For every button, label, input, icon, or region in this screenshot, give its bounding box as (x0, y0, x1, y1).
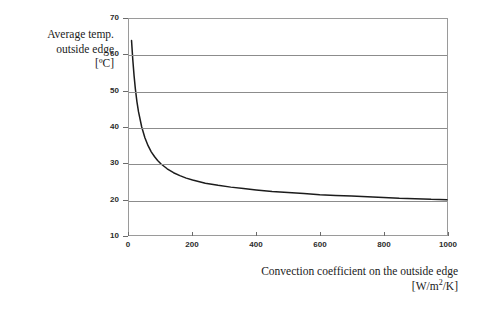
gridline-y-20 (129, 201, 447, 202)
y-tick-30 (123, 163, 128, 164)
gridline-y-50 (129, 92, 447, 93)
y-tick-label-60: 60 (95, 49, 119, 58)
y-tick-label-50: 50 (95, 86, 119, 95)
gridline-y-40 (129, 128, 447, 129)
chart-figure: Average temp. outside edge [ºC] 10203040… (0, 0, 486, 312)
y-tick-label-70: 70 (95, 13, 119, 22)
x-tick-label-600: 600 (300, 240, 340, 249)
y-tick-label-40: 40 (95, 122, 119, 131)
y-tick-label-20: 20 (95, 195, 119, 204)
x-tick-400 (256, 232, 257, 236)
x-axis-title-line-1: Convection coefficient on the outside ed… (196, 264, 458, 279)
x-axis-unit-prefix: [W/m (412, 280, 439, 292)
y-tick-50 (123, 91, 128, 92)
y-axis-title-line-1: Average temp. (6, 27, 114, 42)
x-axis-title-line-2: [W/m2/K] (196, 279, 458, 294)
y-tick-10 (123, 236, 128, 237)
series-line-average-temp (129, 19, 447, 235)
y-tick-label-10: 10 (95, 231, 119, 240)
x-tick-800 (384, 232, 385, 236)
x-tick-1000 (448, 232, 449, 236)
y-tick-60 (123, 54, 128, 55)
x-tick-label-800: 800 (364, 240, 404, 249)
x-tick-label-1000: 1000 (428, 240, 468, 249)
y-tick-20 (123, 200, 128, 201)
x-tick-label-400: 400 (236, 240, 276, 249)
y-tick-label-30: 30 (95, 158, 119, 167)
x-tick-600 (320, 232, 321, 236)
x-tick-label-200: 200 (172, 240, 212, 249)
plot-area (128, 18, 448, 236)
x-tick-label-0: 0 (108, 240, 148, 249)
gridline-y-60 (129, 55, 447, 56)
gridline-y-30 (129, 164, 447, 165)
x-tick-0 (128, 232, 129, 236)
x-tick-200 (192, 232, 193, 236)
y-tick-40 (123, 127, 128, 128)
y-tick-70 (123, 18, 128, 19)
x-axis-title: Convection coefficient on the outside ed… (196, 264, 458, 294)
x-axis-unit-suffix: /K] (443, 280, 458, 292)
